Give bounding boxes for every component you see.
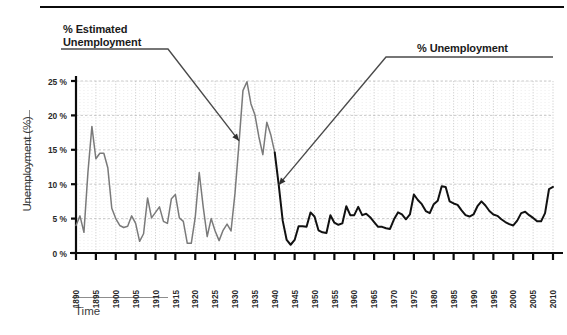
x-tick-label: 1940 [271, 290, 280, 309]
x-tick-label: 1970 [390, 290, 399, 309]
unemployment-line-chart: 0 %5 %10 %15 %20 %25 %189018951900190519… [0, 0, 567, 335]
series-line-actual [275, 153, 553, 245]
x-tick-label: 1905 [132, 290, 141, 309]
x-tick-label: 2005 [529, 290, 538, 309]
x-tick-label: 1990 [470, 290, 479, 309]
figure-root: % Estimated Unemployment % Unemployment … [0, 0, 567, 335]
x-tick-label: 1960 [350, 290, 359, 309]
x-tick-label: 1890 [72, 290, 81, 309]
x-tick-label: 1895 [92, 290, 101, 309]
leader-line-estimated [61, 49, 239, 141]
y-tick-label: 20 % [48, 111, 68, 121]
grid-lines [76, 81, 553, 253]
x-tick-label: 1900 [112, 290, 121, 309]
leader-line-actual [279, 57, 553, 185]
x-tick-label: 2010 [549, 290, 558, 309]
x-tick-label: 1945 [291, 290, 300, 309]
x-tick-label: 1995 [490, 290, 499, 309]
x-tick-label: 1910 [152, 290, 161, 309]
x-tick-label: 1955 [331, 290, 340, 309]
y-tick-label: 5 % [53, 214, 68, 224]
x-tick-label: 1950 [311, 290, 320, 309]
y-tick-label: 25 % [48, 77, 68, 87]
x-tick-label: 1935 [251, 290, 260, 309]
x-tick-label: 1980 [430, 290, 439, 309]
annotation-leaders [61, 49, 553, 185]
y-tick-label: 10 % [48, 180, 68, 190]
x-tick-label: 1930 [231, 290, 240, 309]
y-tick-label: 0 % [53, 249, 68, 259]
x-tick-label: 1925 [211, 290, 220, 309]
x-tick-label: 1965 [370, 290, 379, 309]
x-tick-label: 1915 [172, 290, 181, 309]
x-tick-label: 2000 [509, 290, 518, 309]
x-axis-ticks: 1890189519001905191019151920192519301935… [72, 253, 558, 308]
y-axis-ticks: 0 %5 %10 %15 %20 %25 % [48, 77, 77, 259]
x-tick-label: 1985 [450, 290, 459, 309]
x-tick-label: 1920 [191, 290, 200, 309]
y-tick-label: 15 % [48, 145, 68, 155]
x-tick-label: 1975 [410, 290, 419, 309]
